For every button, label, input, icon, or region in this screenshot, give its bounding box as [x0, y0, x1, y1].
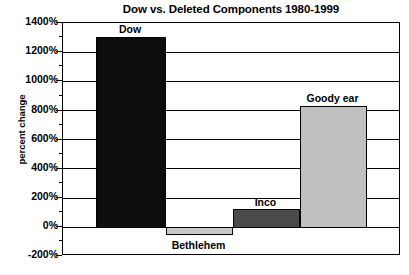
y-tick-label-0: 0% — [0, 220, 58, 231]
bar-inco[interactable] — [233, 209, 300, 228]
y-tick-label-200: 200% — [0, 191, 58, 202]
bar-dow[interactable] — [96, 37, 166, 228]
y-tick-label-1000: 1000% — [0, 74, 58, 85]
plot-area — [62, 22, 400, 255]
bar-label-dow: Dow — [95, 23, 165, 35]
bar-goodyear[interactable] — [300, 106, 367, 228]
bar-bethlehem[interactable] — [166, 227, 233, 236]
bar-label-bethlehem: Bethlehem — [131, 239, 266, 251]
y-tick-label-400: 400% — [0, 162, 58, 173]
y-tick-label-600: 600% — [0, 133, 58, 144]
y-tick-label-1400: 1400% — [0, 16, 58, 27]
bar-label-inco: Inco — [232, 196, 299, 208]
bar-label-goodyear: Goody ear — [290, 92, 375, 104]
y-tick-label-minus200: -200% — [0, 249, 58, 260]
chart-title: Dow vs. Deleted Components 1980-1999 — [62, 2, 400, 17]
bar-chart: Dow vs. Deleted Components 1980-1999 per… — [0, 0, 409, 275]
y-tick-label-800: 800% — [0, 104, 58, 115]
y-tick-label-1200: 1200% — [0, 45, 58, 56]
